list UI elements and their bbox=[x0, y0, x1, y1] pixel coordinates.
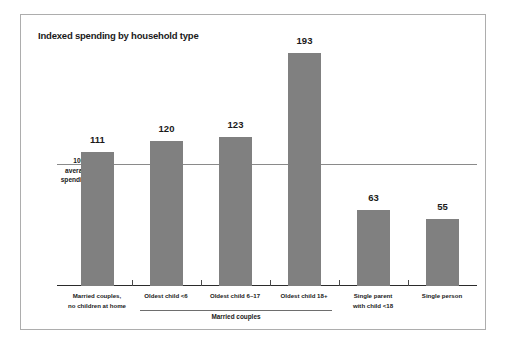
bar-value-label: 55 bbox=[408, 201, 477, 212]
bar-group-oldest-child-6-17: 123 bbox=[201, 40, 270, 286]
bar-value-label: 63 bbox=[339, 192, 408, 203]
group-bracket-label: Married couples bbox=[140, 313, 332, 320]
axis-tick bbox=[132, 280, 133, 286]
bar-group-married-no-children: 111 bbox=[63, 40, 132, 286]
bar-group-oldest-child-18-plus: 193 bbox=[270, 40, 339, 286]
chart-figure: Indexed spending by household type 100 =… bbox=[0, 0, 505, 350]
axis-tick bbox=[201, 280, 202, 286]
table-row[interactable] bbox=[150, 141, 183, 286]
category-label-line2: with child <18 bbox=[330, 301, 416, 311]
bar-value-label: 193 bbox=[270, 35, 339, 46]
bar-group-single-person: 55 bbox=[408, 40, 477, 286]
bar-group-single-parent: 63 bbox=[339, 40, 408, 286]
table-row[interactable] bbox=[357, 210, 390, 286]
axis-tick bbox=[408, 280, 409, 286]
group-bracket-line bbox=[140, 310, 332, 311]
bar-group-oldest-child-under-6: 120 bbox=[132, 40, 201, 286]
plot-area: 111 120 123 193 63 55 bbox=[63, 40, 477, 286]
bar-value-label: 120 bbox=[132, 123, 201, 134]
bar-value-label: 123 bbox=[201, 119, 270, 130]
category-label-line1: Single person bbox=[399, 291, 485, 301]
axis-tick bbox=[270, 280, 271, 286]
table-row[interactable] bbox=[288, 53, 321, 286]
category-label-single-person: Single person bbox=[399, 291, 485, 301]
table-row[interactable] bbox=[219, 137, 252, 286]
table-row[interactable] bbox=[426, 219, 459, 286]
table-row[interactable] bbox=[81, 152, 114, 286]
bar-value-label: 111 bbox=[63, 134, 132, 145]
axis-tick bbox=[339, 280, 340, 286]
category-label-line2: no children at home bbox=[54, 301, 140, 311]
